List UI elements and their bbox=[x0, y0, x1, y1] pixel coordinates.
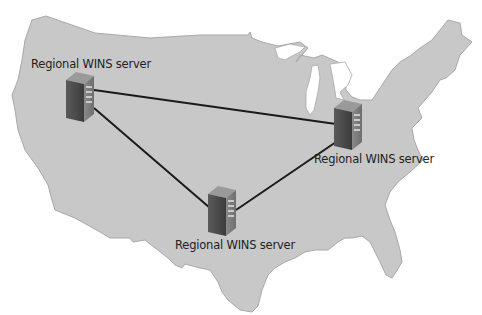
node-label-east: Regional WINS server bbox=[314, 152, 434, 166]
node-label-south: Regional WINS server bbox=[175, 238, 295, 252]
server-icon bbox=[66, 72, 94, 122]
server-icon bbox=[208, 186, 236, 236]
server-icon bbox=[334, 100, 362, 150]
node-label-west: Regional WINS server bbox=[31, 57, 151, 71]
